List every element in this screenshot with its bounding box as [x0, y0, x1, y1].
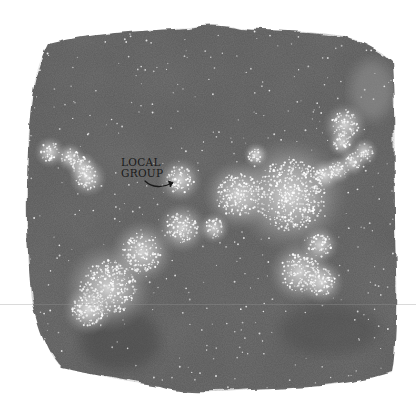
cluster-bottom-left — [62, 284, 113, 335]
local-group-label: LOCAL GROUP — [121, 157, 163, 179]
scan-line — [0, 304, 416, 305]
cluster-left-chain-4 — [69, 159, 107, 197]
galaxy-map-illustration — [0, 0, 416, 419]
cluster-top-center-small — [243, 142, 269, 168]
cluster-local-group — [158, 158, 203, 203]
label-line-2: GROUP — [121, 168, 163, 179]
cluster-right-mid-2 — [324, 156, 353, 185]
